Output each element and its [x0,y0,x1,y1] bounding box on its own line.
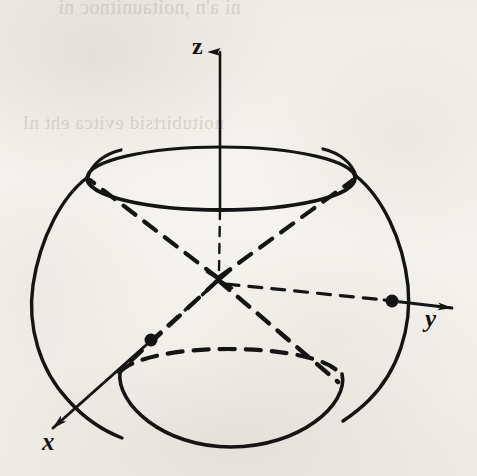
upper-cone-slant-left [90,180,218,278]
upper-cone-slant-right [218,180,353,278]
axis-label-y: y [425,305,436,333]
lower-cone-rim-front-arc [120,372,343,447]
y-axis-point-marker [386,295,399,308]
sphere-outline-left-arc [32,177,122,438]
sphere-double-cone-figure [0,0,477,476]
x-axis-dashed-inner [156,286,212,336]
lower-cone-rim-back-arc [120,349,340,374]
x-axis-point-marker [145,334,158,347]
y-axis-dashed-inner [226,284,384,300]
axis-label-x: x [42,428,55,456]
lower-cone-slant-right [218,280,338,382]
figure-page: ni a'n ,noitaunitnoc ni noitubirtsid evi… [0,0,477,476]
axis-label-z: z [192,33,203,60]
z-axis-dashed-interior [219,210,220,272]
